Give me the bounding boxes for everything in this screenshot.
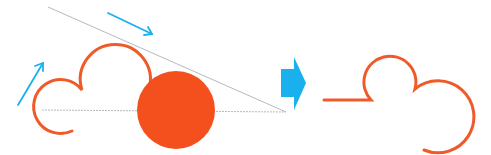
rolling-disc	[137, 71, 215, 149]
left-cloud-curve	[34, 44, 151, 133]
motion-arrow-right-icon	[108, 13, 152, 35]
right-result-curve	[324, 56, 474, 153]
transform-arrow-icon	[281, 57, 306, 110]
diagram-canvas	[0, 0, 491, 155]
motion-arrow-up-icon	[18, 63, 43, 105]
